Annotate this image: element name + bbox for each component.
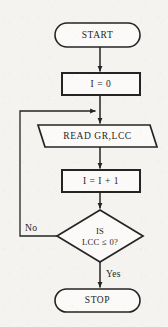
node-init-label: I = 0 <box>91 79 112 89</box>
node-stop-label: STOP <box>85 295 110 305</box>
flowchart-canvas: START I = 0 READ GR,LCC I = I + 1 IS LCC… <box>0 0 168 327</box>
node-decision-label-line2: LCC ≤ 0? <box>82 237 118 247</box>
node-read-label: READ GR,LCC <box>63 131 131 141</box>
branch-label-yes: Yes <box>106 268 121 279</box>
node-start-label: START <box>82 30 114 40</box>
flowchart-diagram: START I = 0 READ GR,LCC I = I + 1 IS LCC… <box>0 0 168 327</box>
node-decision-label-line1: IS <box>96 226 104 236</box>
node-increment-label: I = I + 1 <box>83 176 119 186</box>
branch-label-no: No <box>25 222 37 233</box>
